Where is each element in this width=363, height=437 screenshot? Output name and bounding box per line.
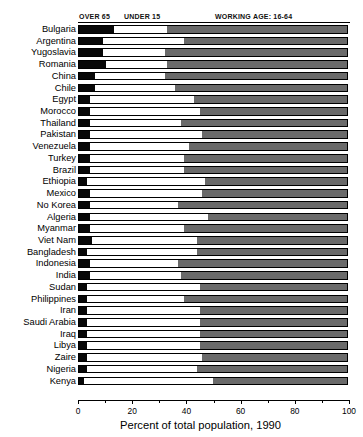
segment-under-15: [90, 214, 208, 221]
stacked-bar: [78, 224, 348, 233]
segment-over-65: [79, 202, 90, 209]
x-axis-tick: [295, 400, 296, 404]
x-axis-tick: [349, 400, 350, 404]
bar-row: Algeria: [0, 212, 363, 224]
segment-under-15: [90, 225, 184, 232]
segment-over-65: [79, 214, 90, 221]
country-label: Bulgaria: [0, 24, 76, 35]
segment-under-15: [103, 49, 165, 56]
segment-working-age: [208, 214, 347, 221]
stacked-bar: [78, 295, 348, 304]
bar-row: Chile: [0, 83, 363, 95]
segment-under-15: [87, 249, 197, 256]
stacked-bar: [78, 341, 348, 350]
segment-under-15: [114, 26, 168, 33]
segment-working-age: [205, 178, 347, 185]
segment-over-65: [79, 178, 87, 185]
country-label: No Korea: [0, 200, 76, 211]
country-label: Algeria: [0, 212, 76, 223]
segment-under-15: [87, 354, 202, 361]
segment-working-age: [200, 307, 347, 314]
segment-under-15: [92, 237, 197, 244]
segment-working-age: [181, 120, 347, 127]
country-label: Romania: [0, 59, 76, 70]
country-label: Chile: [0, 83, 76, 94]
segment-working-age: [200, 331, 347, 338]
stacked-bar: [78, 130, 348, 139]
segment-working-age: [184, 167, 347, 174]
country-label: Iraq: [0, 329, 76, 340]
stacked-bar: [78, 318, 348, 327]
stacked-bar: [78, 189, 348, 198]
stacked-bar: [78, 48, 348, 57]
bar-row: Nigeria: [0, 364, 363, 376]
bar-row: Bulgaria: [0, 24, 363, 36]
segment-over-65: [79, 38, 103, 45]
segment-over-65: [79, 331, 87, 338]
x-axis-title: Percent of total population, 1990: [0, 418, 363, 432]
stacked-bar: [78, 377, 348, 386]
stacked-bar: [78, 25, 348, 34]
bar-row: Ethiopia: [0, 176, 363, 188]
country-label: Libya: [0, 340, 76, 351]
segment-working-age: [197, 237, 347, 244]
country-label: Ethiopia: [0, 176, 76, 187]
x-axis-minor-tick: [214, 400, 215, 403]
bar-row: Mexico: [0, 188, 363, 200]
country-label: Argentina: [0, 36, 76, 47]
stacked-bar: [78, 248, 348, 257]
stacked-bar: [78, 37, 348, 46]
segment-over-65: [79, 49, 103, 56]
bar-row: Pakistan: [0, 129, 363, 141]
bar-row: Argentina: [0, 36, 363, 48]
x-axis-tick-label: 80: [290, 406, 299, 416]
x-axis-minor-tick: [105, 400, 106, 403]
segment-over-65: [79, 120, 90, 127]
segment-over-65: [79, 26, 114, 33]
country-label: Yugoslavia: [0, 47, 76, 58]
stacked-bar: [78, 213, 348, 222]
country-label: Viet Nam: [0, 235, 76, 246]
segment-working-age: [202, 354, 347, 361]
segment-under-15: [90, 131, 203, 138]
legend-label-under-15: UNDER 15: [124, 12, 160, 21]
stacked-bar: [78, 271, 348, 280]
x-axis-tick-label: 40: [182, 406, 191, 416]
segment-working-age: [200, 319, 347, 326]
segment-over-65: [79, 237, 92, 244]
country-label: Pakistan: [0, 129, 76, 140]
bar-row: Zaire: [0, 352, 363, 364]
segment-under-15: [90, 272, 181, 279]
segment-over-65: [79, 296, 87, 303]
segment-working-age: [165, 49, 347, 56]
segment-under-15: [106, 61, 168, 68]
bar-row: Iraq: [0, 329, 363, 341]
segment-over-65: [79, 155, 90, 162]
x-axis-tick: [241, 400, 242, 404]
country-label: Sudan: [0, 282, 76, 293]
country-label: China: [0, 71, 76, 82]
segment-working-age: [213, 378, 347, 385]
country-label: India: [0, 270, 76, 281]
segment-under-15: [87, 366, 197, 373]
stacked-bar: [78, 166, 348, 175]
segment-over-65: [79, 167, 90, 174]
segment-over-65: [79, 354, 87, 361]
country-label: Mexico: [0, 188, 76, 199]
stacked-bar: [78, 236, 348, 245]
bar-row: Philippines: [0, 294, 363, 306]
segment-working-age: [167, 26, 347, 33]
x-axis-tick: [186, 400, 187, 404]
segment-working-age: [200, 284, 347, 291]
country-label: Thailand: [0, 118, 76, 129]
x-axis-minor-tick: [159, 400, 160, 403]
segment-working-age: [200, 342, 347, 349]
country-label: Saudi Arabia: [0, 317, 76, 328]
stacked-bar: [78, 119, 348, 128]
legend-label-working-age: WORKING AGE: 16-64: [215, 12, 292, 21]
country-label: Indonesia: [0, 258, 76, 269]
country-label: Philippines: [0, 294, 76, 305]
segment-working-age: [202, 131, 347, 138]
bar-row: Libya: [0, 340, 363, 352]
country-label: Turkey: [0, 153, 76, 164]
